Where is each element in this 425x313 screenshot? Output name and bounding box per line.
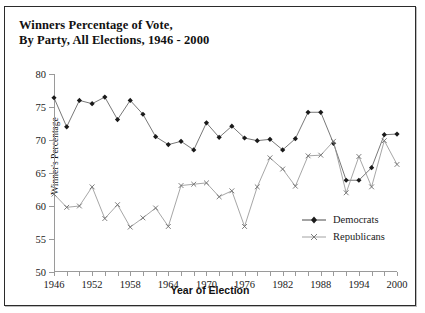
x-tick — [321, 272, 322, 276]
x-tick — [143, 272, 144, 276]
chart-title-line-2: By Party, All Elections, 1946 - 2000 — [19, 33, 349, 48]
x-tick — [181, 272, 182, 276]
chart-legend: Democrats Republicans — [301, 211, 385, 245]
data-point — [217, 194, 222, 199]
data-point — [128, 225, 133, 230]
x-tick — [67, 272, 68, 276]
data-point — [318, 110, 323, 115]
x-axis-label: Year of Election — [5, 284, 415, 296]
data-point — [382, 132, 387, 137]
data-point — [166, 224, 171, 229]
data-point — [382, 138, 387, 143]
data-point — [344, 178, 349, 183]
x-tick — [346, 272, 347, 276]
x-marker-icon — [301, 231, 327, 243]
x-tick — [397, 272, 398, 276]
data-point — [115, 117, 120, 122]
data-point — [305, 110, 310, 115]
data-point — [280, 167, 285, 172]
x-tick — [372, 272, 373, 276]
x-tick — [333, 272, 334, 276]
data-point — [153, 134, 158, 139]
data-point — [90, 184, 95, 189]
data-point — [141, 215, 146, 220]
legend-item-republicans: Republicans — [301, 228, 385, 245]
x-tick — [118, 272, 119, 276]
x-tick — [283, 272, 284, 276]
data-point — [255, 138, 260, 143]
x-tick — [359, 272, 360, 276]
y-tick-label: 50 — [36, 267, 47, 278]
x-tick — [79, 272, 80, 276]
y-tick-label: 75 — [36, 102, 47, 113]
x-tick — [206, 272, 207, 276]
data-point — [77, 98, 82, 103]
data-point — [395, 162, 400, 167]
x-tick — [270, 272, 271, 276]
y-tick-label: 70 — [36, 135, 47, 146]
data-point — [369, 184, 374, 189]
x-tick — [156, 272, 157, 276]
legend-label-republicans: Republicans — [333, 231, 385, 242]
x-tick — [245, 272, 246, 276]
x-tick — [219, 272, 220, 276]
data-point — [102, 216, 107, 221]
x-tick — [130, 272, 131, 276]
data-point — [394, 131, 399, 136]
data-point — [255, 184, 260, 189]
data-point — [356, 154, 361, 159]
data-point — [178, 139, 183, 144]
data-point — [242, 224, 247, 229]
data-point — [229, 188, 234, 193]
x-tick — [257, 272, 258, 276]
diamond-marker-icon — [301, 214, 327, 226]
x-tick — [308, 272, 309, 276]
chart-frame: Winners Percentage of Vote, By Party, Al… — [4, 6, 416, 306]
chart-title-line-1: Winners Percentage of Vote, — [19, 18, 173, 32]
data-point — [268, 155, 273, 160]
y-tick-label: 80 — [36, 69, 47, 80]
y-tick-label: 55 — [36, 234, 47, 245]
series-democrats — [51, 95, 399, 183]
data-point — [153, 206, 158, 211]
x-tick — [92, 272, 93, 276]
data-point — [115, 202, 120, 207]
x-tick — [194, 272, 195, 276]
data-point — [166, 142, 171, 147]
data-point — [90, 101, 95, 106]
data-point — [51, 95, 56, 100]
x-tick — [295, 272, 296, 276]
data-point — [64, 124, 69, 129]
x-tick — [54, 272, 55, 276]
x-tick — [232, 272, 233, 276]
series-line — [54, 97, 397, 180]
data-point — [191, 147, 196, 152]
chart-title: Winners Percentage of Vote, By Party, Al… — [19, 18, 349, 48]
data-point — [102, 95, 107, 100]
data-point — [293, 184, 298, 189]
y-tick-label: 65 — [36, 168, 47, 179]
x-tick — [105, 272, 106, 276]
legend-label-democrats: Democrats — [333, 214, 378, 225]
x-tick — [384, 272, 385, 276]
y-tick-label: 60 — [36, 201, 47, 212]
x-tick — [168, 272, 169, 276]
legend-item-democrats: Democrats — [301, 211, 385, 228]
